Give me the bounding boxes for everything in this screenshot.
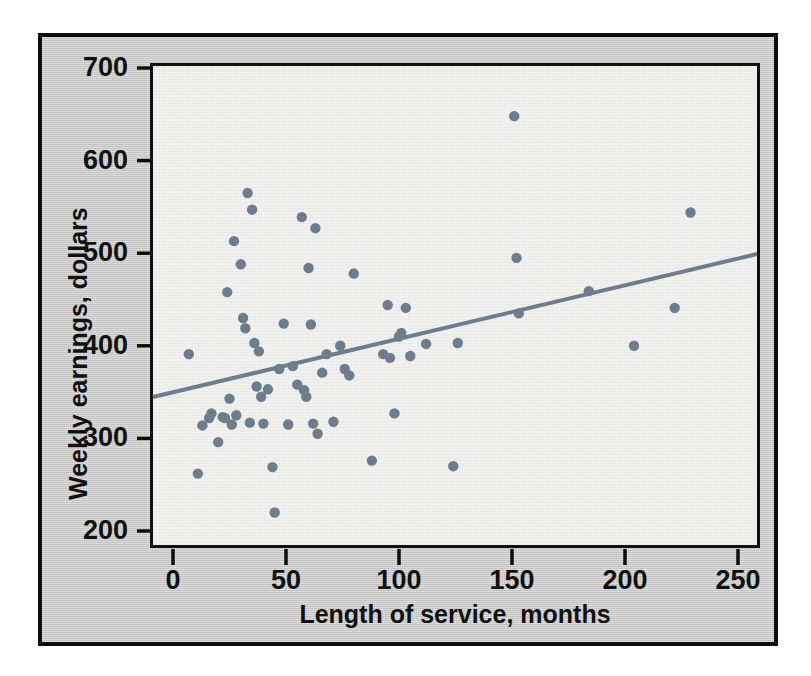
plot-texture <box>153 66 757 545</box>
x-tick-label: 100 <box>349 567 449 594</box>
x-tick-label: 0 <box>123 567 223 594</box>
y-tick-label: 700 <box>52 54 128 81</box>
y-tick-label: 300 <box>52 424 128 451</box>
x-axis-title: Length of service, months <box>150 600 760 629</box>
x-tick-label: 200 <box>575 567 675 594</box>
figure-container: Weekly earnings, dollars Length of servi… <box>0 0 811 676</box>
y-tick-label: 200 <box>52 517 128 544</box>
y-tick-label: 500 <box>52 239 128 266</box>
x-tick-label: 150 <box>462 567 562 594</box>
x-tick-label: 250 <box>688 567 788 594</box>
plot-area-frame <box>150 63 760 548</box>
x-tick-label: 50 <box>236 567 336 594</box>
y-tick-label: 600 <box>52 147 128 174</box>
y-tick-label: 400 <box>52 332 128 359</box>
